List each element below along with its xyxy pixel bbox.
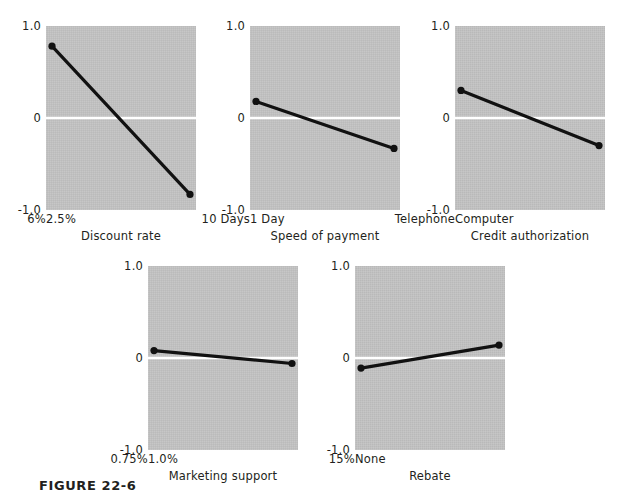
x-axis-title: Discount rate bbox=[46, 231, 196, 243]
y-tick-top: 1.0 bbox=[124, 261, 143, 273]
x-axis-title: Speed of payment bbox=[250, 231, 400, 243]
data-point-marker bbox=[252, 98, 259, 105]
plot-svg-credit-authorization bbox=[455, 26, 605, 210]
x-axis-title: Rebate bbox=[355, 471, 505, 483]
figure-caption: FIGURE 22-6 bbox=[39, 478, 137, 493]
x-axis-title: Credit authorization bbox=[455, 231, 605, 243]
y-tick-top: 1.0 bbox=[22, 21, 41, 33]
x-tick-right: 0.75% bbox=[110, 454, 148, 466]
y-tick-zero: 0 bbox=[33, 113, 41, 125]
y-tick-zero: 0 bbox=[442, 113, 450, 125]
series-line bbox=[52, 46, 190, 194]
figure-22-6: 1.0 0 -1.0 2.5% 6% Discount rate 1.0 0 -… bbox=[0, 0, 632, 497]
y-tick-top: 1.0 bbox=[331, 261, 350, 273]
data-point-marker bbox=[357, 365, 364, 372]
y-tick-zero: 0 bbox=[135, 353, 143, 365]
x-axis-title: Marketing support bbox=[148, 471, 298, 483]
data-point-marker bbox=[390, 145, 397, 152]
y-tick-top: 1.0 bbox=[226, 21, 245, 33]
y-tick-top: 1.0 bbox=[431, 21, 450, 33]
data-point-marker bbox=[495, 342, 502, 349]
series-line bbox=[256, 101, 394, 148]
data-point-marker bbox=[457, 87, 464, 94]
x-tick-left: 1 Day bbox=[250, 214, 285, 226]
x-tick-right: 6% bbox=[27, 214, 46, 226]
plot-svg-marketing-support bbox=[148, 266, 298, 450]
plot-svg-discount-rate bbox=[46, 26, 196, 210]
y-tick-zero: 0 bbox=[237, 113, 245, 125]
y-tick-zero: 0 bbox=[342, 353, 350, 365]
x-tick-right: 10 Days bbox=[202, 214, 250, 226]
data-point-marker bbox=[288, 360, 295, 367]
plot-svg-rebate bbox=[355, 266, 505, 450]
series-line bbox=[361, 345, 499, 368]
x-tick-left: 1.0% bbox=[148, 454, 178, 466]
plot-svg-speed-of-payment bbox=[250, 26, 400, 210]
data-point-marker bbox=[150, 347, 157, 354]
x-tick-left: 2.5% bbox=[46, 214, 76, 226]
x-tick-right: Telephone bbox=[395, 214, 455, 226]
data-point-marker bbox=[48, 43, 55, 50]
data-point-marker bbox=[595, 142, 602, 149]
x-tick-left: None bbox=[355, 454, 386, 466]
data-point-marker bbox=[186, 191, 193, 198]
x-tick-right: 15% bbox=[329, 454, 355, 466]
x-tick-left: Computer bbox=[455, 214, 514, 226]
